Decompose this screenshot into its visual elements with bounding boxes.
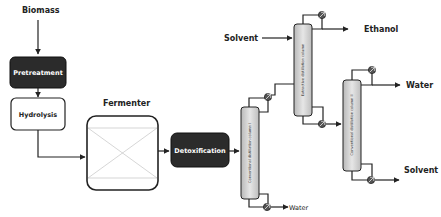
distillation-column-1[interactable]: Conventional distillation column I: [241, 107, 259, 199]
pretreatment-label: Pretreatment: [13, 69, 63, 77]
hydrolysis-label: Hydrolysis: [19, 111, 58, 119]
distillation-column-2[interactable]: Conventional distillation column II: [343, 80, 361, 171]
column2-label: Conventional distillation column II: [350, 94, 354, 155]
pretreatment-block[interactable]: Pretreatment: [10, 57, 66, 88]
solvent-in-label: Solvent: [224, 34, 258, 43]
hydrolysis-block[interactable]: Hydrolysis: [11, 98, 65, 130]
column2-reflux-pipe: [361, 73, 372, 85]
extractive-reflux-pipe: [312, 18, 322, 29]
column1-to-extractive-pipe: [271, 84, 294, 95]
extractive-reboiler-icon: [318, 120, 325, 127]
extractive-distillation-column[interactable]: Extractive distillation column: [294, 24, 312, 116]
extractive-column-label: Extractive distillation column: [301, 44, 305, 96]
hydrolysis-to-fermenter-arrow: [38, 130, 85, 157]
extractive-condenser-icon: [318, 11, 325, 18]
solvent-out-label: Solvent: [404, 166, 438, 175]
column2-reboiler-pipe: [361, 164, 372, 178]
fermenter-vessel[interactable]: [87, 116, 158, 190]
column2-condenser-icon: [368, 66, 375, 73]
column1-condenser-icon: [264, 93, 271, 100]
water-bottom-label: Water: [289, 204, 309, 212]
fermenter-label: Fermenter: [103, 99, 150, 108]
ethanol-label: Ethanol: [364, 25, 399, 34]
column1-bottoms-pipe: [249, 199, 264, 207]
column2-reboiler-icon: [367, 176, 374, 183]
column1-label: Conventional distillation column I: [248, 123, 252, 183]
column1-reboiler-icon: [263, 203, 270, 210]
detoxification-label: Detoxification: [174, 147, 226, 155]
process-flow-diagram: Biomass Pretreatment Hydrolysis Fermente…: [0, 0, 441, 217]
biomass-label: Biomass: [22, 6, 60, 15]
column2-bottoms-pipe: [352, 171, 368, 180]
extractive-bottoms-pipe: [303, 116, 319, 124]
detoxification-block[interactable]: Detoxification: [171, 133, 229, 167]
water-top-label: Water: [406, 81, 433, 90]
